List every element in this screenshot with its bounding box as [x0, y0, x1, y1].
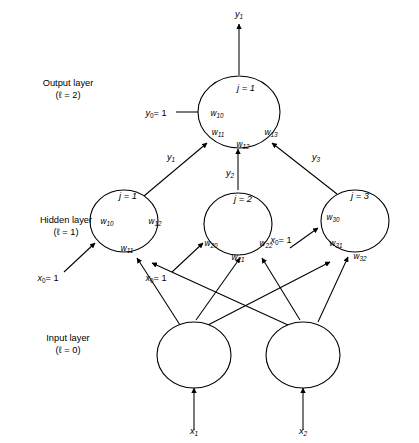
output-node-1-index: j = 1 — [235, 83, 255, 93]
hidden-layer-index: (ℓ = 1) — [54, 227, 79, 237]
input-node-1[interactable] — [157, 322, 231, 388]
hidden-node-1-index: j = 1 — [117, 191, 137, 201]
neural-network-diagram: Output layer (ℓ = 2) Hidden layer (ℓ = 1… — [0, 0, 419, 443]
signal-label-y2: y2 — [225, 168, 235, 179]
edge-input2-to-hidden3 — [318, 257, 348, 322]
edge-input1-to-hidden2 — [196, 258, 240, 320]
layer-label-output: Output layer (ℓ = 2) — [43, 78, 94, 100]
signal-label-y3: y3 — [311, 152, 321, 163]
diagram-canvas: Output layer (ℓ = 2) Hidden layer (ℓ = 1… — [0, 0, 419, 443]
weight-label-h3-w32: w32 — [353, 252, 366, 262]
edge-input1-to-hidden3 — [208, 262, 330, 325]
input-node-2[interactable] — [266, 322, 340, 388]
bias-arrow-hidden1 — [64, 243, 95, 272]
signal-label-x1: x1 — [189, 426, 199, 437]
output-layer-name: Output layer — [43, 78, 94, 88]
hidden-node-3-index: j = 3 — [349, 191, 370, 201]
input-arrows — [194, 388, 303, 430]
layer-label-hidden: Hidden layer (ℓ = 1) — [40, 215, 92, 237]
input-layer-index: (ℓ = 0) — [56, 345, 81, 355]
edge-hidden3-to-output — [272, 143, 337, 194]
signal-label-x2: x2 — [298, 426, 308, 437]
hidden-node-2-index: j = 2 — [232, 194, 253, 204]
edges-input-to-hidden — [137, 257, 348, 325]
hidden-layer-name: Hidden layer — [40, 215, 92, 225]
bias-label-hidden2: x0= 1 — [144, 273, 166, 284]
edges-hidden-to-output — [144, 143, 337, 196]
bias-label-hidden1: x0= 1 — [36, 273, 58, 284]
output-layer-index: (ℓ = 2) — [56, 90, 81, 100]
layer-label-input: Input layer (ℓ = 0) — [46, 333, 89, 355]
bias-arrows — [64, 112, 318, 272]
edge-input2-to-hidden2 — [262, 258, 300, 320]
edge-input1-to-hidden1 — [137, 258, 180, 325]
bias-label-hidden3: x0= 1 — [269, 235, 291, 246]
bias-arrow-hidden2 — [172, 243, 203, 272]
edge-hidden1-to-output — [144, 143, 207, 196]
bias-arrow-hidden3 — [290, 228, 318, 248]
bias-label-output: y0= 1 — [144, 108, 166, 119]
signal-label-network-output: y1 — [234, 9, 244, 20]
signal-label-y1: y1 — [166, 152, 176, 163]
input-layer-name: Input layer — [46, 333, 89, 343]
